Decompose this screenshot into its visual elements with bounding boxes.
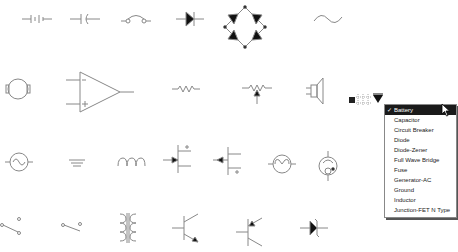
menu-item-junction-fet-n-type[interactable]: Junction-FET N Type xyxy=(385,205,456,215)
menu-item-inductor[interactable]: Inductor xyxy=(385,195,456,205)
mouse-cursor-icon xyxy=(441,103,451,121)
jfet-n-symbol[interactable] xyxy=(163,143,193,175)
switch-spst-symbol[interactable] xyxy=(61,221,85,233)
menu-item-fuse[interactable]: Fuse xyxy=(385,165,456,175)
motor-symbol[interactable] xyxy=(5,77,31,101)
jfet-p-symbol[interactable] xyxy=(213,147,243,179)
menu-item-full-wave-bridge[interactable]: Full Wave Bridge xyxy=(385,155,456,165)
transistor-pnp-symbol[interactable] xyxy=(236,216,266,248)
menu-item-ground[interactable]: Ground xyxy=(385,185,456,195)
symbol-dropdown-menu: ✓ Battery Capacitor Circuit Breaker Diod… xyxy=(384,104,457,218)
check-icon: ✓ xyxy=(387,105,392,115)
phototube-symbol[interactable] xyxy=(316,151,340,181)
symbol-picker-trigger[interactable] xyxy=(349,93,385,111)
resistor-symbol[interactable] xyxy=(172,85,200,93)
menu-item-generator-ac[interactable]: Generator-AC xyxy=(385,175,456,185)
diode-symbol[interactable] xyxy=(176,10,204,28)
full-wave-bridge-symbol[interactable] xyxy=(223,5,267,49)
ground-symbol[interactable] xyxy=(69,159,85,167)
battery-symbol[interactable] xyxy=(22,12,52,26)
speaker-symbol[interactable] xyxy=(305,76,325,106)
capacitor-symbol[interactable] xyxy=(70,12,100,26)
transformer-symbol[interactable] xyxy=(118,212,138,246)
dropdown-arrow-icon xyxy=(373,95,383,103)
menu-item-circuit-breaker[interactable]: Circuit Breaker xyxy=(385,125,456,135)
inductor-symbol[interactable] xyxy=(118,157,146,167)
lamp-symbol[interactable] xyxy=(268,152,296,176)
diode-zener-symbol[interactable] xyxy=(300,218,328,238)
potentiometer-symbol[interactable] xyxy=(242,84,272,106)
menu-item-diode-zener[interactable]: Diode-Zener xyxy=(385,145,456,155)
switch-spdt-symbol[interactable] xyxy=(0,217,24,237)
generator-ac-symbol[interactable] xyxy=(5,150,33,174)
circuit-breaker-symbol[interactable] xyxy=(121,12,151,26)
op-amp-symbol[interactable] xyxy=(66,70,136,114)
fuse-symbol[interactable] xyxy=(314,13,342,25)
transistor-npn-symbol[interactable] xyxy=(172,212,202,244)
menu-item-diode[interactable]: Diode xyxy=(385,135,456,145)
